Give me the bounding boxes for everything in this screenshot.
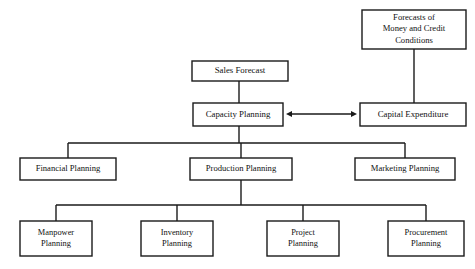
node-layer: Forecasts ofMoney and CreditConditionsSa… [20,10,466,256]
node-procurement_planning[interactable]: ProcurementPlanning [388,221,464,256]
node-sales_forecast[interactable]: Sales Forecast [192,61,288,81]
arrow-head-right [351,111,357,117]
node-label-inventory_planning: Planning [162,239,193,248]
arrow-capacity-capital-bidirectional [286,111,357,117]
node-label-capacity_planning: Capacity Planning [206,109,271,119]
flowchart-svg: Forecasts ofMoney and CreditConditionsSa… [0,0,475,269]
node-marketing_planning[interactable]: Marketing Planning [355,158,455,180]
node-label-manpower_planning: Manpower [38,228,74,237]
node-manpower_planning[interactable]: ManpowerPlanning [20,221,92,256]
node-label-marketing_planning: Marketing Planning [371,163,440,173]
arrow-head-left [286,111,292,117]
node-label-forecasts: Money and Credit [383,23,446,33]
node-label-project_planning: Planning [288,239,319,248]
arrow-layer [286,111,357,117]
node-label-forecasts: Conditions [395,35,433,45]
node-label-procurement_planning: Planning [411,239,442,248]
node-capacity_planning[interactable]: Capacity Planning [193,103,283,126]
node-label-inventory_planning: Inventory [161,228,194,237]
node-label-capital_expenditure: Capital Expenditure [378,109,449,119]
node-project_planning[interactable]: ProjectPlanning [267,221,339,256]
node-production_planning[interactable]: Production Planning [190,158,292,180]
node-inventory_planning[interactable]: InventoryPlanning [141,221,213,256]
node-label-financial_planning: Financial Planning [36,163,101,173]
node-financial_planning[interactable]: Financial Planning [20,158,116,180]
node-label-sales_forecast: Sales Forecast [215,65,266,75]
node-capital_expenditure[interactable]: Capital Expenditure [360,103,466,126]
node-label-manpower_planning: Planning [41,239,72,248]
node-forecasts[interactable]: Forecasts ofMoney and CreditConditions [362,10,466,49]
node-label-forecasts: Forecasts of [393,12,435,22]
node-label-project_planning: Project [291,228,315,237]
node-label-procurement_planning: Procurement [405,228,448,237]
node-label-production_planning: Production Planning [206,163,277,173]
diagram-canvas: Forecasts ofMoney and CreditConditionsSa… [0,0,475,269]
